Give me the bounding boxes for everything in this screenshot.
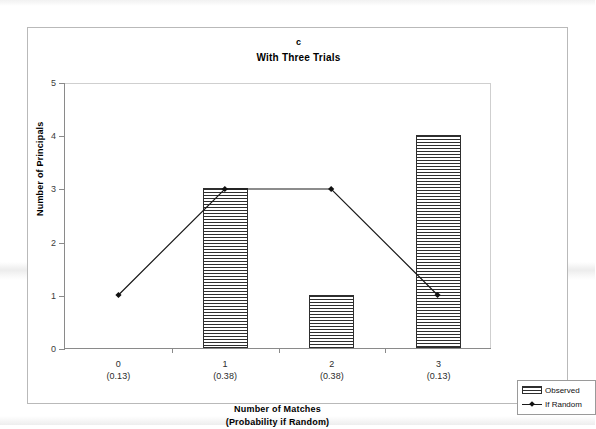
plot-area: 012345 0(0.13)1(0.38)2(0.38)3(0.13) (64, 83, 491, 349)
line-path (118, 189, 437, 295)
y-tick-label: 0 (51, 344, 56, 354)
chart-title: With Three Trials (28, 52, 569, 63)
y-tick-label: 2 (51, 238, 56, 248)
x-tick-label-probability: (0.38) (320, 370, 344, 382)
x-axis-title-main: Number of Matches (234, 404, 321, 414)
legend-item-if-random[interactable]: If Random (522, 398, 591, 410)
y-tick-label: 4 (51, 131, 56, 141)
x-tick-label-category: 0 (116, 359, 121, 369)
line-series-if-random (65, 83, 491, 348)
y-axis-title: Number of Principals (35, 121, 45, 216)
x-tick-label-category: 1 (223, 359, 228, 369)
x-tick-label: 0(0.13) (107, 358, 131, 382)
x-tick-label: 1(0.38) (213, 358, 237, 382)
y-tick-label: 5 (51, 78, 56, 88)
x-axis-title: Number of Matches (Probability if Random… (64, 403, 491, 429)
x-tick-label-probability: (0.13) (427, 370, 451, 382)
scan-artifact-top-band (0, 0, 595, 6)
x-tick (279, 348, 280, 353)
x-tick-label-probability: (0.13) (107, 370, 131, 382)
line-diamond-swatch-icon (522, 400, 542, 408)
panel-label: c (28, 37, 569, 47)
chart-legend: Observed If Random (517, 380, 596, 415)
legend-item-observed[interactable]: Observed (522, 384, 591, 396)
x-tick-label: 3(0.13) (427, 358, 451, 382)
y-tick-label: 1 (51, 291, 56, 301)
x-tick (385, 348, 386, 353)
x-tick-label-probability: (0.38) (213, 370, 237, 382)
hatched-bar-swatch-icon (522, 386, 542, 394)
y-tick (59, 349, 65, 350)
x-tick-label-category: 2 (329, 359, 334, 369)
legend-label-observed: Observed (545, 386, 580, 395)
x-axis-title-sub: (Probability if Random) (64, 416, 491, 429)
x-tick-label-category: 3 (436, 359, 441, 369)
chart-frame: c With Three Trials Number of Principals… (27, 27, 568, 404)
x-tick-label: 2(0.38) (320, 358, 344, 382)
legend-label-if-random: If Random (545, 400, 582, 409)
x-tick (172, 348, 173, 353)
y-tick-label: 3 (51, 184, 56, 194)
